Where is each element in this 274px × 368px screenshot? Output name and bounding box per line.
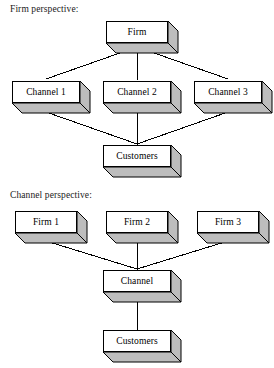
node-firm-3-label: Firm 3 (197, 211, 259, 233)
link-channel3-to-customers (137, 112, 228, 144)
box-bottom-face (103, 167, 181, 177)
node-firm-1: Firm 1 (15, 211, 77, 233)
node-firm-1-label: Firm 1 (15, 211, 77, 233)
node-channel-1-label: Channel 1 (12, 81, 80, 103)
node-firm: Firm (106, 21, 168, 43)
node-firm-2: Firm 2 (106, 211, 168, 233)
box-bottom-face (194, 103, 272, 113)
box-bottom-face (106, 233, 178, 243)
box-bottom-face (103, 352, 181, 362)
node-customers-top: Customers (103, 145, 171, 167)
box-bottom-face (106, 43, 178, 53)
box-bottom-face (15, 233, 87, 243)
section-title-firm-perspective: Firm perspective: (10, 4, 78, 15)
box-bottom-face (103, 103, 181, 113)
node-channel: Channel (103, 270, 171, 292)
node-channel-3-label: Channel 3 (194, 81, 262, 103)
node-channel-1: Channel 1 (12, 81, 80, 103)
link-firm1-to-channel (46, 241, 137, 269)
connector-lines (0, 0, 274, 368)
node-channel-2-label: Channel 2 (103, 81, 171, 103)
node-channel-2: Channel 2 (103, 81, 171, 103)
box-bottom-face (197, 233, 269, 243)
link-channel1-to-customers (46, 112, 137, 144)
box-bottom-face (103, 292, 181, 302)
diagram-canvas: Firm perspective: Firm Channel 1 Channel… (0, 0, 274, 368)
node-customers-top-label: Customers (103, 145, 171, 167)
node-firm-3: Firm 3 (197, 211, 259, 233)
section-title-channel-perspective: Channel perspective: (10, 190, 92, 201)
node-customers-bottom-label: Customers (103, 330, 171, 352)
node-channel-3: Channel 3 (194, 81, 262, 103)
node-customers-bottom: Customers (103, 330, 171, 352)
node-channel-label: Channel (103, 270, 171, 292)
box-bottom-face (12, 103, 90, 113)
link-firm3-to-channel (137, 241, 228, 269)
node-firm-2-label: Firm 2 (106, 211, 168, 233)
node-firm-label: Firm (106, 21, 168, 43)
